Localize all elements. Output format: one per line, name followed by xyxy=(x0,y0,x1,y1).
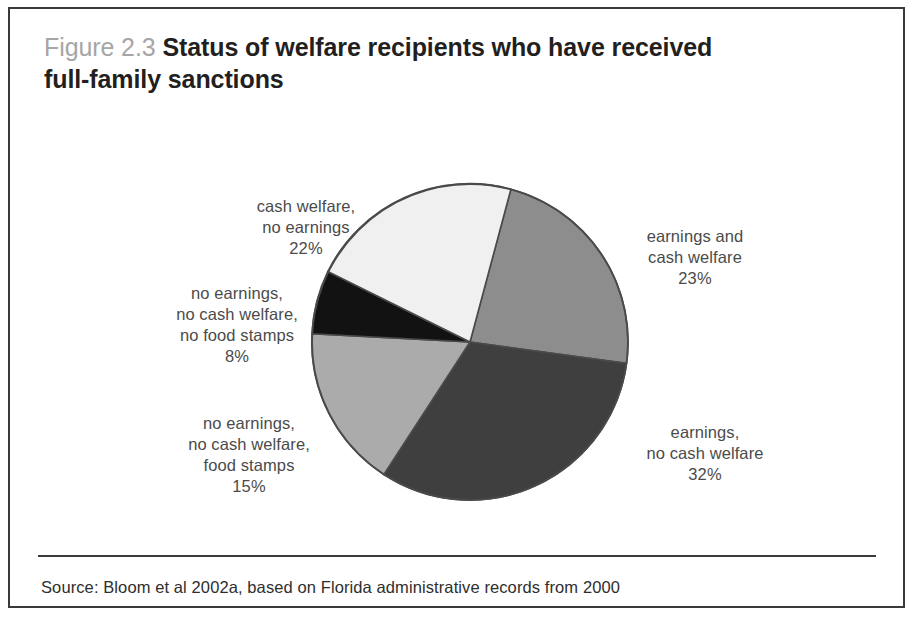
slice-label-no-earnings-no-cash-welfare-no-food-stamps: no earnings, no cash welfare, no food st… xyxy=(122,262,352,388)
figure-frame: Figure 2.3 Status of welfare recipients … xyxy=(8,7,905,608)
slice-label-earnings-and-cash-welfare: earnings and cash welfare 23% xyxy=(585,205,805,310)
source-divider xyxy=(38,555,876,557)
slice-label-text: earnings and cash welfare xyxy=(647,227,744,266)
slice-label-text: earnings, no cash welfare xyxy=(646,423,763,462)
slice-label-text: cash welfare, no earnings xyxy=(257,197,356,236)
slice-label-percent: 15% xyxy=(134,476,364,497)
pie-chart: cash welfare, no earnings 22% no earning… xyxy=(10,9,903,606)
slice-label-no-earnings-no-cash-welfare-food-stamps: no earnings, no cash welfare, food stamp… xyxy=(134,392,364,518)
slice-label-text: no earnings, no cash welfare, no food st… xyxy=(176,284,298,344)
slice-label-earnings-no-cash-welfare: earnings, no cash welfare 32% xyxy=(590,401,820,506)
slice-label-percent: 22% xyxy=(206,238,406,259)
slice-label-percent: 23% xyxy=(585,268,805,289)
slice-label-percent: 32% xyxy=(590,464,820,485)
slice-label-text: no earnings, no cash welfare, food stamp… xyxy=(188,414,310,474)
slice-label-percent: 8% xyxy=(122,346,352,367)
source-note: Source: Bloom et al 2002a, based on Flor… xyxy=(41,577,861,597)
